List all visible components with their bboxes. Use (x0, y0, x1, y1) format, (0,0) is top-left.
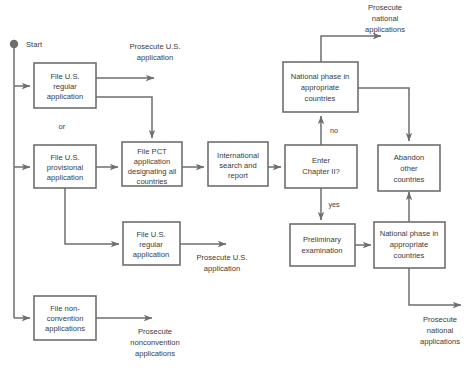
node-label-line-1: National phase in (291, 72, 350, 81)
node-label-line-1: File U.S. (136, 230, 165, 239)
node-enter-chapter-ii[interactable]: Enter Chapter II? (285, 145, 357, 188)
node-preliminary-examination[interactable]: Preliminary examination (290, 224, 355, 266)
node-label-line-1: File U.S. (50, 72, 79, 81)
node-file-us-regular-2[interactable]: File U.S. regular application (123, 222, 180, 265)
node-label-line-2: convention (47, 314, 84, 323)
or-label: or (59, 122, 66, 131)
label-line-1: Prosecute U.S. (129, 42, 180, 51)
edge-label-no: no (330, 126, 338, 135)
node-label-line-1: National phase in (380, 229, 439, 238)
node-label-line-3: application (47, 92, 83, 101)
label-prosecute-us-top: Prosecute U.S. application (129, 42, 180, 62)
node-box (290, 224, 355, 266)
node-label-line-3: countries (394, 251, 425, 260)
label-prosecute-us-mid: Prosecute U.S. application (196, 253, 247, 273)
node-label-line-1: International (217, 151, 259, 160)
node-label-line-3: application (133, 250, 169, 259)
label-line-2: national (372, 14, 399, 23)
node-file-nonconvention[interactable]: File non- convention applications (34, 296, 96, 340)
label-line-3: applications (135, 349, 175, 358)
node-label-line-3: application (47, 173, 83, 182)
node-label-line-2: provisional (47, 163, 84, 172)
start-label: Start (26, 40, 43, 49)
node-file-us-regular-1[interactable]: File U.S. regular application (34, 63, 96, 108)
node-label-line-3: applications (45, 324, 85, 333)
node-label-line-2: appropriate (301, 83, 339, 92)
node-label-line-1: File PCT (137, 147, 167, 156)
label-line-3: applications (420, 337, 460, 346)
connector-national-top-to-abandon (358, 88, 409, 141)
node-abandon-other-countries[interactable]: Abandon other countries (378, 145, 440, 191)
node-label-line-2: other (400, 164, 418, 173)
label-line-2: application (204, 264, 240, 273)
connector-national-top-to-prosecute-national (321, 36, 381, 62)
node-label-line-3: countries (305, 94, 336, 103)
flowchart-svg: Start File U.S. regular application or F… (0, 0, 473, 374)
node-file-pct[interactable]: File PCT application designating all cou… (122, 142, 182, 186)
node-label-line-1: File U.S. (50, 153, 79, 162)
node-label-line-2: application (134, 157, 170, 166)
connector-provisional-to-regular2 (65, 188, 119, 244)
label-line-1: Prosecute (138, 327, 172, 336)
node-label-line-1: File non- (50, 304, 80, 313)
flowchart-canvas: Start File U.S. regular application or F… (0, 0, 473, 374)
node-label-line-1: Enter (312, 156, 331, 165)
node-label-line-2: appropriate (390, 240, 428, 249)
node-label-line-3: report (228, 171, 249, 180)
label-prosecute-nonconvention: Prosecute nonconvention applications (130, 327, 179, 358)
label-line-1: Prosecute U.S. (196, 253, 247, 262)
label-line-3: applications (365, 25, 405, 34)
node-national-phase-bottom[interactable]: National phase in appropriate countries (374, 222, 445, 268)
label-line-2: nonconvention (130, 338, 179, 347)
connector-national-bottom-to-prosecute-national (409, 268, 461, 305)
label-prosecute-national-top: Prosecute national applications (365, 3, 405, 34)
node-label-line-3: designating all (128, 167, 177, 176)
node-label-line-2: regular (139, 240, 163, 249)
node-label-line-2: regular (53, 82, 77, 91)
node-label-line-2: examination (302, 246, 343, 255)
node-national-phase-top[interactable]: National phase in appropriate countries (283, 62, 358, 112)
node-international-search[interactable]: International search and report (208, 142, 268, 186)
label-line-2: application (137, 53, 173, 62)
node-label-line-4: countries (137, 177, 168, 186)
label-line-1: Prosecute (423, 315, 457, 324)
label-prosecute-national-bottom: Prosecute national applications (420, 315, 460, 346)
node-label-line-1: Abandon (394, 153, 424, 162)
edge-label-yes: yes (328, 200, 340, 209)
start-node-dot (10, 40, 18, 48)
connector-regular1-to-pct (96, 97, 152, 138)
label-line-2: national (427, 326, 454, 335)
node-label-line-3: countries (394, 175, 425, 184)
label-line-1: Prosecute (368, 3, 402, 12)
node-file-us-provisional[interactable]: File U.S. provisional application (34, 145, 96, 188)
node-label-line-2: Chapter II? (302, 167, 340, 176)
node-label-line-2: search and (219, 161, 257, 170)
node-label-line-1: Preliminary (303, 235, 341, 244)
